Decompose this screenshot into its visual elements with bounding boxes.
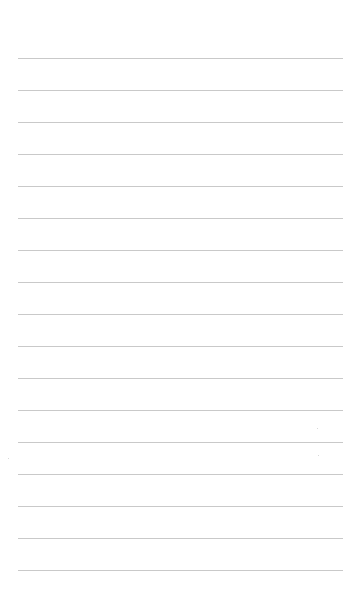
ruled-line [18,250,343,251]
ruled-line [18,282,343,283]
ruled-line [18,538,343,539]
ruled-line [18,506,343,507]
ruled-line [18,154,343,155]
ruled-line [18,186,343,187]
paper-speck [8,458,9,459]
paper-speck [317,428,318,429]
ruled-line [18,346,343,347]
ruled-line [18,314,343,315]
ruled-line [18,90,343,91]
ruled-line [18,58,343,59]
ruled-line [18,570,343,571]
ruled-line [18,378,343,379]
ruled-line [18,218,343,219]
ruled-line [18,474,343,475]
paper-speck [318,455,319,456]
lined-paper-page [0,0,360,615]
ruled-line [18,122,343,123]
ruled-line [18,442,343,443]
ruled-line [18,410,343,411]
